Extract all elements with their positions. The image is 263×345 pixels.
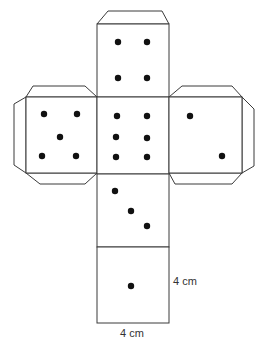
tab-right-side	[242, 97, 254, 173]
face-top-four	[97, 24, 169, 97]
tab-top	[97, 11, 169, 24]
die-net-diagram: 4 cm 4 cm	[0, 0, 263, 345]
faces	[26, 24, 242, 323]
face-center-six	[97, 97, 169, 174]
tab-right-top	[169, 86, 242, 97]
width-dimension-label: 4 cm	[120, 327, 144, 339]
tab-left-top	[26, 86, 97, 97]
face-right-two	[169, 97, 242, 173]
tab-left-side	[14, 97, 26, 173]
pips-one	[128, 283, 134, 289]
tab-left-bottom	[26, 173, 97, 184]
height-dimension-label: 4 cm	[173, 275, 197, 287]
tab-right-bottom	[169, 173, 242, 184]
